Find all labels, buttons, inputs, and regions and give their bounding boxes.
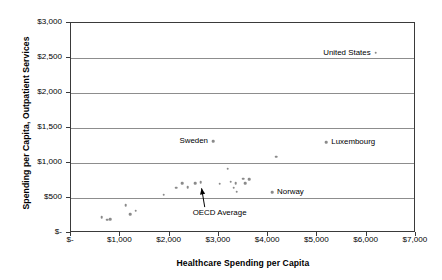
scatter-chart: Spending per Capita, Outpatient Services… [0, 0, 442, 280]
x-axis-title: Healthcare Spending per Capita [70, 258, 416, 268]
annotation-arrow-icon [0, 0, 442, 280]
